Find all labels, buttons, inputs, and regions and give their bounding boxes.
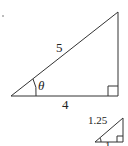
hypotenuse-label: 5 — [56, 41, 63, 54]
right-angle-marker — [108, 86, 118, 96]
angle-arc — [33, 79, 36, 96]
triangle-diagram — [0, 0, 128, 146]
marker-dot — [2, 15, 4, 17]
small-right-angle-marker — [117, 136, 123, 142]
small-base-label: 1 — [105, 140, 111, 146]
small-hypotenuse-label: 1.25 — [88, 115, 107, 126]
base-label: 4 — [62, 98, 69, 111]
large-triangle — [11, 12, 118, 96]
theta-label: θ — [38, 79, 44, 92]
